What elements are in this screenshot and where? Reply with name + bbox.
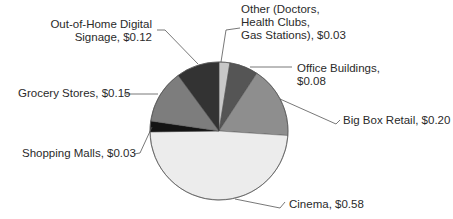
slice-cinema bbox=[150, 131, 288, 200]
slice-label-cinema: Cinema, $0.58 bbox=[289, 198, 364, 211]
slice-label-shopping-malls: Shopping Malls, $0.03 bbox=[22, 147, 136, 160]
leader-line-other-doctors-health-clubs-gas-stations bbox=[221, 28, 240, 62]
label-line: Cinema, $0.58 bbox=[289, 198, 364, 211]
label-line: Other (Doctors, bbox=[241, 3, 346, 16]
slice-label-other-doctors-health-clubs-gas-stations: Other (Doctors,Health Clubs,Gas Stations… bbox=[241, 3, 346, 42]
label-line: Gas Stations), $0.03 bbox=[241, 29, 346, 42]
label-line: Big Box Retail, $0.20 bbox=[343, 114, 450, 127]
pie-slices bbox=[150, 62, 288, 200]
slice-label-office-buildings: Office Buildings,$0.08 bbox=[297, 62, 380, 88]
leader-line-big-box-retail bbox=[280, 99, 340, 124]
slice-label-grocery-stores: Grocery Stores, $0.15 bbox=[18, 87, 131, 100]
label-line: Shopping Malls, $0.03 bbox=[22, 147, 136, 160]
leader-line-out-of-home-digital-signage bbox=[157, 30, 198, 64]
leader-line-shopping-malls bbox=[134, 127, 152, 154]
label-line: Health Clubs, bbox=[241, 16, 346, 29]
label-line: $0.08 bbox=[297, 75, 380, 88]
label-line: Office Buildings, bbox=[297, 62, 380, 75]
slice-label-out-of-home-digital-signage: Out-of-Home DigitalSignage, $0.12 bbox=[50, 18, 152, 44]
label-line: Signage, $0.12 bbox=[50, 31, 152, 44]
label-line: Grocery Stores, $0.15 bbox=[18, 87, 131, 100]
label-line: Out-of-Home Digital bbox=[50, 18, 152, 31]
slice-label-big-box-retail: Big Box Retail, $0.20 bbox=[343, 114, 450, 127]
leader-line-cinema bbox=[235, 199, 285, 208]
